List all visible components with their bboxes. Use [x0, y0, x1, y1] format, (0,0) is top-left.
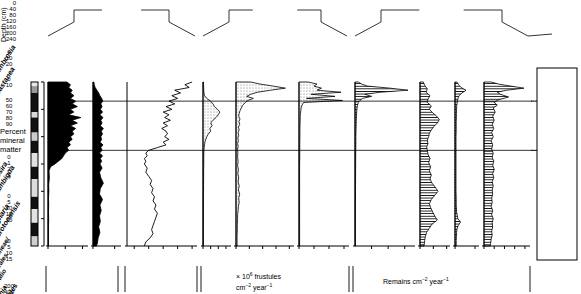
panel-4 [234, 82, 294, 249]
panel-3 [201, 82, 231, 249]
panel-6 [353, 82, 415, 249]
curve-daphnia-mandibles [355, 82, 408, 246]
year-leader [528, 34, 552, 36]
curve-chaoborus [484, 82, 524, 246]
curve-dicrotendipes [420, 82, 439, 246]
curve-fragilaria-crotonensis [236, 82, 285, 246]
bracket-leg-right [321, 22, 347, 36]
unit-label-frustules: × 106 frustulescm−2 year−1 [236, 270, 281, 293]
lithology-band [31, 82, 38, 86]
curve-araphidineae-centrales-ratio [299, 82, 343, 246]
panel-7 [418, 82, 450, 249]
curve-melosira-ambigua [203, 82, 220, 246]
bracket-leg-left [48, 22, 74, 36]
bracket-leg-right [502, 22, 528, 36]
depth-axis-label: Depth (cm) [0, 0, 7, 42]
unit-label-remains: Remains cm−2 year−1 [383, 275, 449, 286]
group-bracket-animals [355, 10, 528, 36]
panel-9 [482, 82, 530, 249]
curve-chironomus [455, 82, 466, 246]
bracket-leg-left [355, 22, 381, 36]
figure-root: 04080120160200240Depth (cm)01020Ambrosia… [0, 0, 581, 294]
year-column-box [537, 68, 577, 260]
lithology-band [31, 86, 38, 93]
panel-8 [453, 82, 479, 249]
panel-5 [297, 82, 349, 249]
